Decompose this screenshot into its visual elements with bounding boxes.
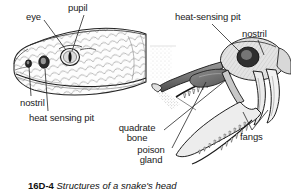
figure-caption: 16D-4 Structures of a snake's head (28, 180, 177, 191)
leader-eye (44, 20, 66, 50)
figure-container: eye pupil nostril heat sensing pit heat-… (0, 0, 291, 194)
leader-poison-gland (172, 82, 206, 148)
leader-nostril-right (258, 40, 264, 55)
leader-heat-sensing-pit-right (212, 24, 240, 52)
label-fangs: fangs (240, 132, 263, 143)
label-poison-gland: poison gland (128, 145, 174, 165)
leader-nostril-left (29, 67, 31, 96)
figure-caption-text: Structures of a snake's head (57, 180, 177, 191)
label-nostril-right: nostril (242, 29, 267, 40)
leader-heat-sensing-pit-left (45, 69, 48, 111)
leader-pupil (72, 15, 84, 51)
leader-quadrate-bone (164, 80, 226, 130)
label-eye: eye (26, 12, 41, 23)
label-pupil: pupil (68, 3, 88, 14)
leader-fangs-b (252, 110, 268, 130)
label-heat-sensing-pit-right: heat-sensing pit (175, 12, 240, 23)
leader-fangs-a (243, 112, 252, 130)
label-heat-sensing-pit-left: heat sensing pit (29, 113, 94, 124)
label-quadrate-bone: quadrate bone (110, 123, 164, 143)
figure-number: 16D-4 (28, 180, 54, 191)
label-nostril-left: nostril (20, 98, 45, 109)
